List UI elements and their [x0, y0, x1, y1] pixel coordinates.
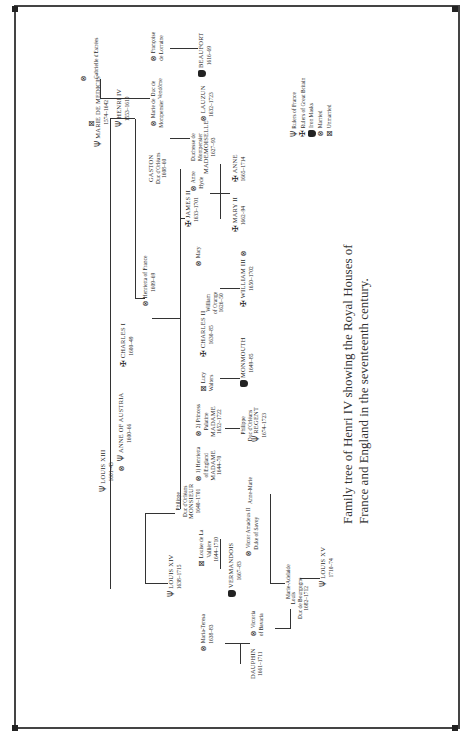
connector-line — [180, 169, 181, 509]
legend-item: ✠Rulers of Great Britain — [299, 78, 308, 139]
person-charles-ii: ✠CHARLES II1630–85 — [200, 311, 215, 359]
married-icon: ⊗ — [245, 550, 253, 557]
connector-line — [145, 513, 175, 514]
person-louis-bourgogne: LouisDuc de Bourgogne1682–1712 — [290, 578, 310, 619]
person-maria-teresa: ⊗Maria-Teresa1638–83 — [200, 614, 215, 654]
married-icon: ⊗ — [142, 300, 150, 307]
person-mary-ii: ✠MARY II1662–94 — [232, 197, 247, 234]
person-dauphin: DAUPHIN1661–1711 — [250, 648, 263, 679]
cross-icon: ✠ — [232, 225, 240, 232]
person-princess-palatine: ⊗2) PrincessPalatineMADAME1652–1722 — [195, 404, 223, 439]
connector-line — [240, 644, 241, 664]
unmarried-icon: ⊠ — [198, 560, 206, 567]
connector-line — [210, 193, 230, 194]
married-icon: ⊗ — [200, 115, 208, 122]
connector-line — [300, 578, 320, 579]
person-francoise: ⊗Françoisede Lorraine — [150, 32, 165, 64]
fleur-icon: Ψ — [118, 455, 126, 461]
connector-line — [135, 298, 145, 299]
connector-line — [275, 628, 290, 629]
connector-line — [270, 494, 271, 584]
connector-line — [170, 48, 198, 49]
person-henri-iv: ΨHENRI IV1553–1610 — [116, 89, 131, 129]
person-henrietta-england: ⊗1) Henriettaof EnglandMADAME1644–70 — [195, 447, 223, 484]
connector-line — [110, 119, 111, 589]
person-anne: ✠ANNE1665–1714 — [232, 154, 247, 184]
connector-line — [270, 583, 285, 584]
corner-marker — [452, 725, 458, 731]
mask-icon — [198, 70, 206, 77]
fleur-icon: Ψ — [253, 436, 261, 442]
connector-line — [135, 119, 136, 299]
cross-icon: ✠ — [240, 300, 248, 307]
person-james-ii: ✠JAMES II1633–1701 — [185, 190, 200, 229]
fleur-icon: Ψ — [100, 486, 108, 492]
mask-icon — [228, 590, 236, 597]
person-philippe-regent: PhilippeDuc d'OrléansΨREGENT1674–1723 — [240, 407, 268, 444]
unmarried-symbol: ⊠ — [88, 118, 96, 129]
cross-icon: ✠ — [200, 350, 208, 357]
married-icon: ⊗ — [200, 645, 208, 652]
person-beaufort: BEAUFORT1616–69 — [198, 32, 213, 79]
connector-line — [170, 138, 190, 139]
cross-icon: ✠ — [185, 220, 193, 227]
legend-item: ⊗Married — [316, 78, 325, 139]
married-icon: ⊗ — [150, 55, 158, 62]
connector-line — [220, 164, 221, 219]
person-monmouth: MONMOUTH1649–85 — [240, 337, 255, 389]
person-victor-amadeus: ⊗Victor Amadeus IIDuke of Savoy — [245, 508, 260, 559]
person-philippe-monsieur: PhilippeDuc d'OrléansMONSIEUR1640–1701 — [175, 483, 201, 519]
connector-line — [145, 583, 168, 584]
married-icon: ⊗ — [195, 430, 203, 437]
person-mary: ⊗Mary — [195, 246, 203, 269]
connector-line — [145, 514, 146, 584]
connector-line — [225, 428, 240, 429]
married-icon: ⊗ — [240, 250, 248, 257]
person-marie-montpensier: ⊗Marie deMontpensier — [150, 99, 165, 129]
married-icon: ⊗ — [118, 465, 126, 472]
person-louise-la-valliere: ⊠Louise de LaVallière1644–1710 — [198, 530, 219, 569]
person-mademoiselle: Duchesse deMontpensierMADEMOISELLE1627–9… — [190, 120, 216, 174]
connector-line — [225, 643, 250, 644]
person-louis-xiv: ΨLOUIS XIV1638–1715 — [168, 555, 183, 599]
fleur-icon: Ψ — [320, 581, 328, 587]
connector-line — [290, 609, 291, 629]
person-lauzun: ⊗LAUZUN1632–1723 — [200, 85, 215, 124]
corner-marker — [12, 725, 18, 731]
connector-line — [220, 378, 240, 379]
connector-line — [220, 539, 221, 569]
person-anne-hyde: ⊗AnneHyde — [190, 171, 205, 194]
legend-item: Iron Masks — [307, 78, 316, 139]
cross-icon: ✠ — [299, 130, 307, 137]
mask-icon — [240, 380, 248, 387]
unmarried-icon: ⊠ — [88, 120, 96, 127]
figure-caption: Family tree of Henri IV showing the Roya… — [340, 244, 372, 524]
person-gabrielle: Gabrielle d'Estrées — [93, 38, 100, 79]
person-charles-i: ✠CHARLES I1600–49 — [120, 323, 135, 369]
fleur-icon: Ψ — [116, 121, 124, 127]
married-icon: ⊗ — [195, 475, 203, 482]
person-william-iii: ✠WILLIAM III⊗1650–1702 — [240, 248, 255, 309]
connector-line — [180, 218, 185, 219]
connector-line — [100, 79, 101, 99]
unmarried-icon: ⊠ — [326, 130, 334, 137]
person-louis-xv: ΨLOUIS XV1710–74 — [320, 547, 335, 589]
unmarried-icon: ⊠ — [200, 385, 208, 392]
corner-marker — [12, 6, 18, 12]
person-louis-xiii: ΨLOUIS XIII1601–43 — [100, 450, 115, 494]
mask-icon — [308, 130, 316, 137]
person-gaston: GASTONDuc d'Orléans1608–60 — [148, 153, 168, 184]
person-lucy-walters: ⊠LucyWalters — [200, 372, 215, 394]
connector-line — [220, 288, 240, 289]
cross-icon: ✠ — [232, 175, 240, 182]
person-marie-de-medicis: ΨMARIE DE MEDICIS1574–1642 — [95, 76, 110, 149]
connector-line — [100, 98, 150, 99]
connector-line — [110, 118, 135, 119]
fleur-icon: Ψ — [168, 591, 176, 597]
married-icon: ⊗ — [195, 260, 203, 267]
married-icon: ⊗ — [150, 120, 158, 127]
legend-item: ⊠Unmarried — [325, 78, 334, 139]
cross-icon: ✠ — [120, 360, 128, 367]
person-duc-de-vendome: Duc deVendôme — [150, 78, 163, 99]
person-vermandois: VERMANDOIS1667–83 — [228, 543, 243, 599]
